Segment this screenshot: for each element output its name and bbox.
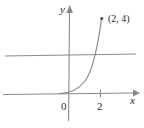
exponential-graph-figure: y x 0 2 (2, 4) xyxy=(0,0,144,128)
point-label-2-4: (2, 4) xyxy=(108,14,130,24)
point-marker-2-4 xyxy=(100,17,103,20)
x-axis-label: x xyxy=(130,95,135,106)
y-axis-arrow-icon xyxy=(66,5,73,13)
y-axis-label: y xyxy=(60,4,65,15)
exponential-curve xyxy=(60,19,102,94)
horizontal-line-y4 xyxy=(5,54,136,56)
x-axis-line xyxy=(3,93,133,95)
x-tick-label-2: 2 xyxy=(97,101,103,112)
origin-label: 0 xyxy=(61,101,67,112)
y-axis-line xyxy=(69,12,70,121)
